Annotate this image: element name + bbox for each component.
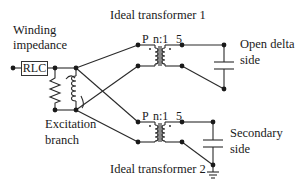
wire-b-t2-top — [76, 68, 138, 122]
resistor-icon — [50, 68, 60, 110]
t2-secondary-terminal: 5 — [176, 110, 182, 122]
t2-ratio: n:1 — [153, 110, 168, 122]
t1-ratio: n:1 — [153, 33, 168, 45]
t1-primary-terminal: P — [142, 33, 149, 45]
wire-b-t1-top — [76, 45, 138, 68]
excitation-branch-label-1: Excitation — [45, 117, 96, 132]
open-delta-label-2: side — [240, 53, 260, 68]
inductor-icon — [72, 76, 77, 101]
ideal-transformer-2-label: Ideal transformer 2 — [110, 162, 206, 177]
winding-impedance-box: RLC — [21, 61, 48, 76]
t2-primary-terminal: P — [142, 110, 149, 122]
winding-impedance-label-2: impedance — [13, 38, 67, 53]
t1-secondary-terminal: 5 — [176, 33, 182, 45]
open-delta-label-1: Open delta — [240, 37, 295, 52]
excitation-branch-label-2: branch — [45, 133, 79, 148]
nonlinear-mark — [66, 76, 75, 79]
winding-impedance-label-1: Winding — [13, 23, 56, 38]
secondary-side-label-1: Secondary — [230, 126, 283, 141]
ideal-transformer-1-label: Ideal transformer 1 — [110, 8, 206, 23]
ideal-transformer-2 — [138, 122, 182, 142]
wire-b2-t1-bottom — [76, 66, 138, 110]
ideal-transformer-1 — [138, 45, 182, 66]
secondary-side-label-2: side — [230, 142, 250, 157]
